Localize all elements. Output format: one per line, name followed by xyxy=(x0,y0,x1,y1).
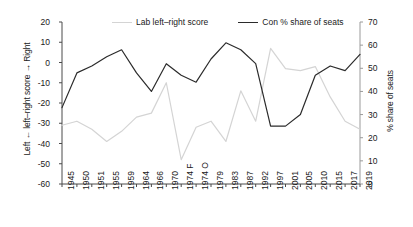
y-axis-left-tick-label: -30 xyxy=(10,118,50,128)
chart-legend: Lab left–right score Con % share of seat… xyxy=(112,17,344,27)
legend-item-con: Con % share of seats xyxy=(238,17,343,27)
x-axis-tick-label: 1983 xyxy=(230,171,240,190)
x-axis-tick-label: 1970 xyxy=(170,171,180,190)
x-axis-tick-label: 2001 xyxy=(290,171,300,190)
legend-label-lab: Lab left–right score xyxy=(136,17,208,27)
x-axis-tick-label: 1974 O xyxy=(200,162,210,190)
x-axis-tick-label: 1992 xyxy=(260,171,270,190)
series-line-lab xyxy=(62,48,360,159)
plot-area xyxy=(0,0,413,227)
y-axis-right-tick-label: 30 xyxy=(368,110,398,120)
chart-container: Left ← left–right score → Right % share … xyxy=(0,0,413,227)
x-axis-tick-label: 1974 F xyxy=(185,164,195,190)
series-line-con xyxy=(62,43,360,126)
x-axis-tick-label: 2017 xyxy=(349,171,359,190)
y-axis-left-tick-label: -60 xyxy=(10,179,50,189)
x-axis-tick-label: 2005 xyxy=(304,171,314,190)
x-axis-tick-label: 1987 xyxy=(245,171,255,190)
x-axis-tick-label: 2010 xyxy=(319,171,329,190)
legend-label-con: Con % share of seats xyxy=(262,17,343,27)
x-axis-tick-label: 1979 xyxy=(215,171,225,190)
y-axis-left-tick-label: 10 xyxy=(10,37,50,47)
y-axis-right-tick-label: 50 xyxy=(368,63,398,73)
legend-swatch-lab-icon xyxy=(112,22,132,23)
x-axis-tick-label: 1964 xyxy=(141,171,151,190)
y-axis-right-tick-label: 70 xyxy=(368,17,398,27)
x-axis-tick-label: 1955 xyxy=(111,171,121,190)
y-axis-left-tick-label: -40 xyxy=(10,139,50,149)
y-axis-right-tick-label: 40 xyxy=(368,86,398,96)
legend-item-lab: Lab left–right score xyxy=(112,17,208,27)
y-axis-left-tick-label: -10 xyxy=(10,78,50,88)
y-axis-left-tick-label: -50 xyxy=(10,159,50,169)
y-axis-right-tick-label: 10 xyxy=(368,156,398,166)
legend-swatch-con-icon xyxy=(238,22,258,23)
y-axis-left-tick-label: 0 xyxy=(10,58,50,68)
x-axis-tick-label: 1959 xyxy=(126,171,136,190)
x-axis-tick-label: 1945 xyxy=(66,171,76,190)
x-axis-tick-label: 2019 xyxy=(364,171,374,190)
y-axis-left-tick-label: 20 xyxy=(10,17,50,27)
x-axis-tick-label: 1997 xyxy=(275,171,285,190)
y-axis-left-tick-label: -20 xyxy=(10,98,50,108)
x-axis-tick-label: 2015 xyxy=(334,171,344,190)
x-axis-tick-label: 1966 xyxy=(155,171,165,190)
x-axis-tick-label: 1951 xyxy=(96,171,106,190)
y-axis-right-tick-label: 20 xyxy=(368,133,398,143)
y-axis-right-tick-label: 60 xyxy=(368,40,398,50)
x-axis-tick-label: 1950 xyxy=(81,171,91,190)
